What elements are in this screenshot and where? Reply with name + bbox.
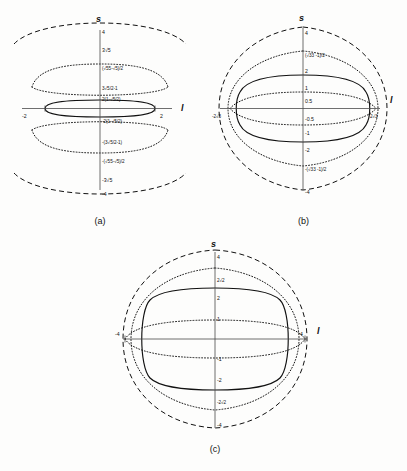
tick-label-a-1: 3√5 [102,47,111,53]
panel-c-axes [123,252,307,428]
axis-label-l: l [181,103,184,113]
tick-label-c-x-pos4: 4 [300,331,303,337]
tick-label-b-3: 1 [305,85,308,91]
panel-a-axes [22,30,172,190]
tick-label-c-7: -4 [217,422,222,428]
tick-label-a-x-neg2: -2 [22,113,27,119]
figure-sheet: s l 4 3√5 (√55-√5)/2 3√5/2-1 2(1-√5/2) -… [0,0,407,471]
tick-label-c-4: -1 [217,356,222,362]
tick-label-b-7: -2 [305,147,310,153]
tick-label-c-0: 4 [217,254,220,260]
tick-label-b-4: 0.5 [305,98,312,104]
tick-label-b-9: -4 [305,189,310,195]
axis-label-l: l [390,95,393,105]
tick-label-a-4: 2(1-√5/2) [102,97,121,102]
panel-c: s l 4 2√2 2 1 -1 -2 -2√2 -4 -4 4 (c) [95,238,335,471]
tick-label-c-1: 2√2 [217,278,225,283]
tick-label-a-x-pos2: 2 [160,113,163,119]
caption-panel-a: (a) [0,216,200,226]
tick-label-a-3: 3√5/2-1 [102,86,118,91]
axis-label-s: s [299,13,304,23]
tick-label-b-x-pos: 2√3 [370,114,378,119]
tick-label-b-8: -(√33 -1)/2 [305,167,327,172]
axis-label-l: l [317,326,320,336]
tick-label-a-7: -(√55-√5)/2 [102,159,125,164]
tick-label-c-x-neg4: -4 [115,331,120,337]
tick-label-c-6: -2√2 [217,400,227,405]
tick-label-b-x-neg: -2√3 [212,114,222,119]
tick-label-c-3: 1 [217,316,220,322]
tick-label-a-6: -(3√5/2-1) [102,140,123,145]
panel-b-plot: s l 4 (√33 -1)/2 2 1 0.5 -0.5 -1 -2 -(√3… [200,2,407,214]
tick-label-b-0: 4 [305,30,308,36]
tick-label-a-8: -3√5 [102,177,112,183]
panel-c-plot: s l 4 2√2 2 1 -1 -2 -2√2 -4 -4 4 [95,238,335,443]
panel-a-plot: s l 4 3√5 (√55-√5)/2 3√5/2-1 2(1-√5/2) -… [0,2,200,214]
axis-label-s: s [211,239,216,249]
tick-label-b-2: 2 [305,68,308,74]
panel-b: s l 4 (√33 -1)/2 2 1 0.5 -0.5 -1 -2 -(√3… [200,2,407,240]
tick-label-b-5: -0.5 [305,116,314,122]
panel-c-tick-labels: 4 2√2 2 1 -1 -2 -2√2 -4 -4 4 [115,254,303,428]
axis-label-s: s [96,14,101,24]
caption-panel-b: (b) [200,216,407,226]
tick-label-a-5: -2(1-√5/2) [102,119,123,124]
tick-label-a-2: (√55-√5)/2 [102,66,124,71]
tick-label-b-1: (√33 -1)/2 [305,53,325,58]
tick-label-b-6: -1 [305,130,310,136]
tick-label-c-5: -2 [217,377,222,383]
tick-label-a-9: -4 [102,191,107,197]
tick-label-a-0: 4 [102,29,105,35]
caption-panel-c: (c) [95,444,335,454]
tick-label-c-2: 2 [217,295,220,301]
panel-a: s l 4 3√5 (√55-√5)/2 3√5/2-1 2(1-√5/2) -… [0,2,200,240]
panel-a-tick-labels: 4 3√5 (√55-√5)/2 3√5/2-1 2(1-√5/2) -2(1-… [22,29,163,197]
